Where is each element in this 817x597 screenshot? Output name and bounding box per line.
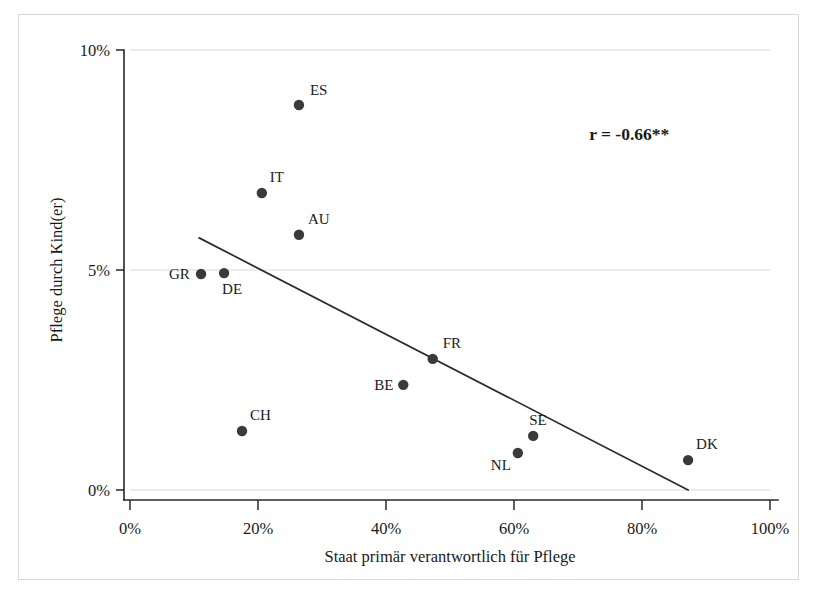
point-label-au: AU <box>308 211 330 227</box>
data-point-gr <box>196 269 206 279</box>
x-tick-label-60: 60% <box>499 519 530 538</box>
y-axis-title: Pflege durch Kind(er) <box>47 198 66 343</box>
x-tick-label-20: 20% <box>243 519 274 538</box>
plot-canvas: 0%5%10%0%20%40%60%80%100% ESITAUGRDEFRBE… <box>0 0 817 597</box>
data-point-dk <box>683 455 693 465</box>
x-tick-label-0: 0% <box>119 519 141 538</box>
point-label-fr: FR <box>443 335 461 351</box>
data-point-ch <box>237 426 247 436</box>
point-label-se: SE <box>529 412 547 428</box>
point-label-nl: NL <box>491 457 511 473</box>
point-label-dk: DK <box>696 436 718 452</box>
y-tick-label-10: 10% <box>80 41 111 60</box>
y-tick-label-5: 5% <box>88 261 110 280</box>
axis-titles: Staat primär verantwortlich für PflegePf… <box>47 198 576 566</box>
tick-marks <box>116 50 770 510</box>
data-point-be <box>398 380 408 390</box>
data-point-de <box>219 268 229 278</box>
data-point-fr <box>428 354 438 364</box>
data-point-nl <box>513 448 523 458</box>
annotation-correlation: r = -0.66** <box>589 124 669 144</box>
fit-line <box>199 238 688 490</box>
scatter-plot-figure: 0%5%10%0%20%40%60%80%100% ESITAUGRDEFRBE… <box>0 0 817 597</box>
annotations: r = -0.66** <box>589 124 669 144</box>
data-point-se <box>528 431 538 441</box>
point-label-de: DE <box>222 281 242 297</box>
data-point-au <box>294 230 304 240</box>
y-tick-label-0: 0% <box>88 481 110 500</box>
point-label-it: IT <box>270 169 284 185</box>
regression-line <box>199 238 688 490</box>
x-tick-label-40: 40% <box>371 519 402 538</box>
point-label-gr: GR <box>169 266 190 282</box>
data-point-es <box>294 100 304 110</box>
data-point-it <box>257 188 267 198</box>
point-label-be: BE <box>374 377 393 393</box>
x-tick-label-100: 100% <box>751 519 790 538</box>
x-tick-label-80: 80% <box>627 519 658 538</box>
tick-labels: 0%5%10%0%20%40%60%80%100% <box>80 41 790 538</box>
point-label-ch: CH <box>250 407 271 423</box>
x-axis-title: Staat primär verantwortlich für Pflege <box>324 547 575 566</box>
point-label-es: ES <box>310 82 328 98</box>
